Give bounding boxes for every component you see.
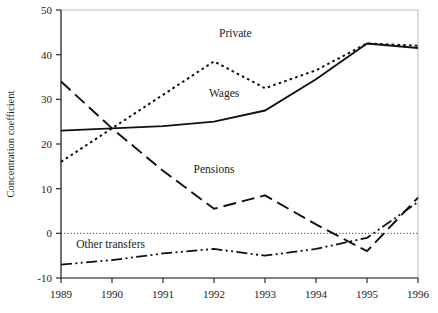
series-label-wages: WagesWages	[209, 87, 240, 100]
x-tick-label: 1993	[254, 288, 277, 300]
y-tick-label: -10	[37, 272, 52, 284]
series-line-pensions	[61, 81, 418, 251]
y-tick-label: 40	[41, 49, 53, 61]
svg-text:Pensions: Pensions	[194, 163, 235, 175]
x-tick-label: 1995	[356, 288, 379, 300]
series-line-other-transfers	[61, 202, 418, 265]
line-chart: -100102030405019891990199119921993199419…	[0, 0, 438, 313]
series-label-other-transfers: Other transfersOther transfers	[76, 238, 145, 250]
y-tick-label: 10	[41, 183, 53, 195]
x-tick-label: 1990	[101, 288, 124, 300]
svg-text:Private: Private	[219, 27, 252, 39]
x-tick-label: 1996	[407, 288, 430, 300]
x-axis: 19891990199119921993199419951996	[50, 278, 430, 300]
series-line-wages	[61, 44, 418, 131]
x-tick-label: 1994	[305, 288, 328, 300]
y-axis-title: Concentration coefficient	[5, 91, 16, 198]
series-line-private	[61, 44, 418, 162]
y-tick-label: 20	[41, 138, 53, 150]
x-tick-label: 1989	[50, 288, 73, 300]
svg-text:Wages: Wages	[209, 87, 240, 100]
x-tick-label: 1992	[203, 288, 225, 300]
x-tick-label: 1991	[152, 288, 174, 300]
series-label-private: PrivatePrivate	[219, 27, 252, 39]
y-tick-label: 30	[41, 93, 53, 105]
series-label-pensions: PensionsPensions	[194, 163, 235, 175]
y-axis: -1001020304050	[37, 4, 61, 284]
y-tick-label: 0	[47, 227, 53, 239]
y-tick-label: 50	[41, 4, 53, 16]
chart-container: -100102030405019891990199119921993199419…	[0, 0, 438, 313]
svg-text:Other transfers: Other transfers	[76, 238, 145, 250]
